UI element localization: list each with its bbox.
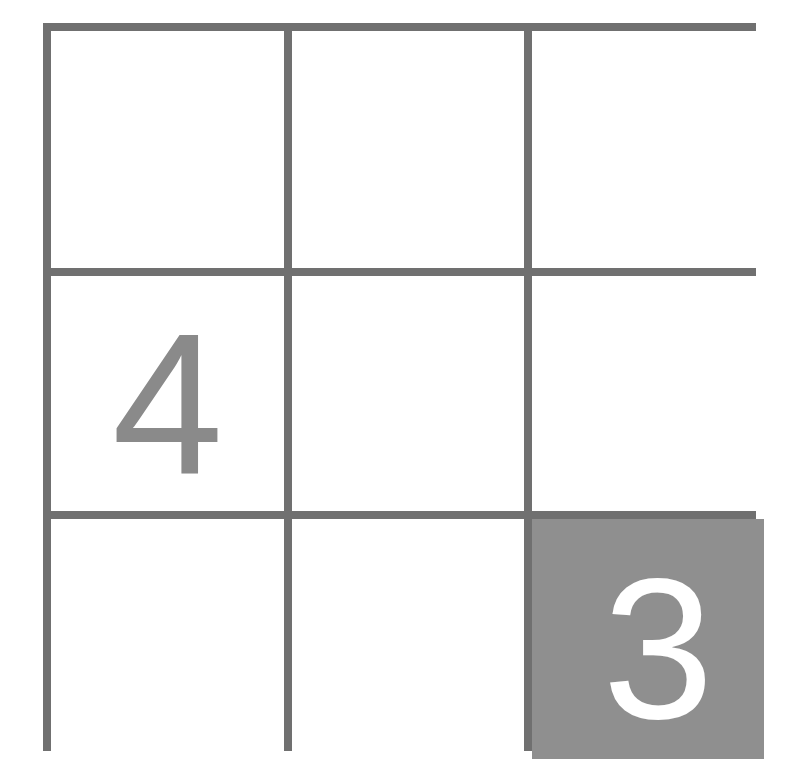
cell-r1-c3[interactable] [532,31,764,268]
cell-value: 3 [602,549,713,749]
cell-r1-c1[interactable] [51,31,284,268]
cell-r3-c3-shaded[interactable]: 3 [532,519,764,759]
cell-r2-c1[interactable]: 4 [51,276,284,511]
cell-r3-c2[interactable] [292,519,524,759]
puzzle-grid: 4 3 [43,23,756,751]
cell-r3-c1[interactable] [51,519,284,759]
cell-r1-c2[interactable] [292,31,524,268]
cell-r2-c3[interactable] [532,276,764,511]
cell-r2-c2[interactable] [292,276,524,511]
cell-value: 4 [112,304,223,504]
